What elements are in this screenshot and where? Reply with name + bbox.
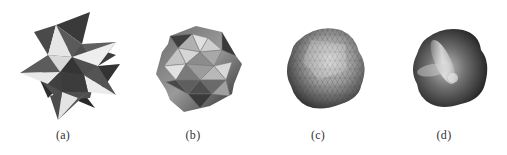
panel-a-label: (a) [0,128,126,143]
panel-d-label: (d) [381,128,507,143]
subdivided-faceted-mesh-image [130,0,256,130]
fine-triangulated-mesh-image [255,0,381,130]
panel-c: (c) [255,0,381,155]
smooth-limit-surface-image [381,0,507,130]
panel-c-label: (c) [255,128,381,143]
stellated-polyhedron-image [0,0,126,130]
panel-a: (a) [0,0,126,155]
panel-b-label: (b) [130,128,256,143]
panel-b: (b) [130,0,256,155]
panel-d: (d) [381,0,507,155]
